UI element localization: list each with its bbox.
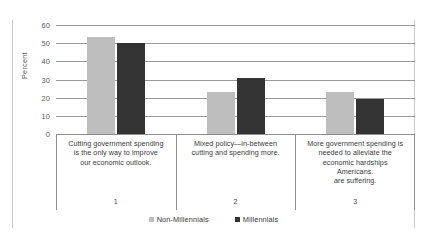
category-label-line: Cutting government spending	[60, 139, 172, 148]
y-tick-label-30: 30	[41, 75, 50, 84]
category-label-line: our economic outlook.	[60, 158, 172, 167]
legend-swatch-icon	[235, 217, 240, 222]
y-tick-label-60: 60	[41, 21, 50, 30]
bar-millennials-3	[356, 99, 384, 134]
category-label-line: cutting and spending more.	[180, 148, 292, 157]
category-label-1: Cutting government spendingis the only w…	[60, 139, 172, 167]
y-tick-label-20: 20	[41, 93, 50, 102]
y-axis-label: Percent	[20, 52, 29, 79]
category-divider-0	[56, 134, 57, 210]
bar-non-millennials-3	[326, 92, 354, 134]
category-divider-1	[176, 134, 177, 210]
category-label-line: Americans.	[299, 167, 411, 176]
category-label-line: are suffering.	[299, 176, 411, 185]
y-tick-label-0: 0	[46, 130, 50, 139]
y-tick-label-50: 50	[41, 39, 50, 48]
plot-area: 6050403020100	[56, 25, 415, 134]
bar-non-millennials-2	[207, 92, 235, 134]
bar-chart-figure: Percent 6050403020100 Cutting government…	[0, 0, 427, 252]
category-cell-2: Mixed policy—in-betweencutting and spend…	[176, 135, 296, 210]
category-label-line: is the only way to improve	[60, 148, 172, 157]
bar-millennials-1	[117, 43, 145, 134]
legend-item-non-millennials[interactable]: Non-Millennials	[149, 215, 209, 224]
category-number-2: 2	[176, 197, 296, 206]
legend-label: Millennials	[243, 215, 279, 224]
category-number-3: 3	[295, 197, 415, 206]
gridline-60: 60	[56, 25, 415, 26]
category-divider-2	[295, 134, 296, 210]
figure-left-border	[12, 20, 13, 228]
y-tick-label-40: 40	[41, 57, 50, 66]
chart-legend: Non-MillennialsMillennials	[0, 215, 427, 224]
category-label-line: needed to alleviate the	[299, 148, 411, 157]
category-cell-3: More government spending isneeded to all…	[295, 135, 415, 210]
category-number-1: 1	[56, 197, 176, 206]
category-label-3: More government spending isneeded to all…	[299, 139, 411, 185]
category-label-line: More government spending is	[299, 139, 411, 148]
category-label-line: Mixed policy—in-between	[180, 139, 292, 148]
legend-swatch-icon	[149, 217, 154, 222]
category-table: Cutting government spendingis the only w…	[56, 134, 415, 210]
bar-millennials-2	[237, 78, 265, 134]
category-divider-3	[414, 134, 415, 210]
legend-item-millennials[interactable]: Millennials	[235, 215, 279, 224]
category-cell-1: Cutting government spendingis the only w…	[56, 135, 176, 210]
bar-non-millennials-1	[87, 37, 115, 134]
category-label-line: economic hardships	[299, 158, 411, 167]
y-tick-label-10: 10	[41, 111, 50, 120]
legend-label: Non-Millennials	[157, 215, 209, 224]
category-label-2: Mixed policy—in-betweencutting and spend…	[180, 139, 292, 158]
